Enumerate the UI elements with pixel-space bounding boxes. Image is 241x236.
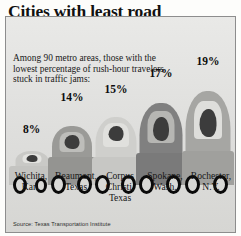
category-label-corpus-christi-line2: Christi, [96, 181, 144, 192]
value-label-corpus-christi: 15% [92, 83, 140, 95]
category-label-spokane-line2: Wash. [140, 181, 190, 192]
category-label-beaumont: Beaumont, Texas [50, 170, 102, 192]
category-label-rochester-line1: Rochester, [185, 170, 236, 181]
car-occupant-corpus-christi [109, 126, 124, 141]
category-label-wichita-line1: Wichita, [6, 170, 56, 181]
category-label-wichita-line2: Kan. [6, 181, 56, 192]
car-occupant-wichita [26, 155, 37, 162]
car-occupant-beaumont [65, 135, 80, 149]
category-label-rochester-line2: N.Y. [185, 181, 236, 192]
chart-panel: Among 90 metro areas, those with the low… [5, 16, 236, 233]
category-label-beaumont-line1: Beaumont, [50, 170, 102, 181]
car-body-rochester [182, 77, 234, 185]
category-label-corpus-christi-line3: Texas [96, 192, 144, 203]
category-label-beaumont-line2: Texas [50, 181, 102, 192]
value-label-spokane: 17% [136, 67, 186, 79]
value-label-rochester: 19% [182, 55, 234, 67]
car-occupant-rochester [200, 109, 217, 137]
category-label-corpus-christi-line1: Corpus [96, 170, 144, 181]
car-bar-spokane: 17% [136, 69, 186, 185]
category-label-spokane: Spokane, Wash. [140, 170, 190, 192]
category-label-wichita: Wichita, Kan. [6, 170, 56, 192]
category-label-rochester: Rochester, N.Y. [185, 170, 236, 192]
value-label-beaumont: 14% [48, 91, 96, 103]
category-labels: Wichita, Kan. Beaumont, Texas Corpus Chr… [6, 170, 236, 214]
car-bar-rochester: 19% [182, 57, 234, 185]
category-label-corpus-christi: Corpus Christi, Texas [96, 170, 144, 203]
car-occupant-spokane [153, 117, 169, 141]
category-label-spokane-line1: Spokane, [140, 170, 190, 181]
source-note: Source: Texas Transportation Institute [13, 221, 111, 228]
infographic-container: Cities with least road congestion in pea… [0, 0, 241, 236]
